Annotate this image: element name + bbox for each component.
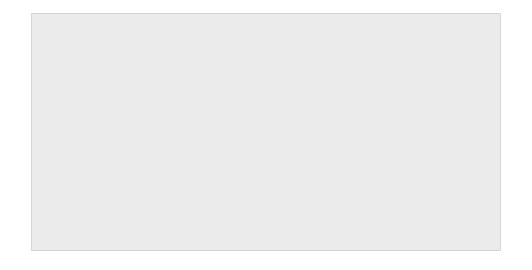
chart-panel (31, 13, 501, 251)
chart-figure: Percentage051015202530197619801985199019… (0, 0, 532, 270)
